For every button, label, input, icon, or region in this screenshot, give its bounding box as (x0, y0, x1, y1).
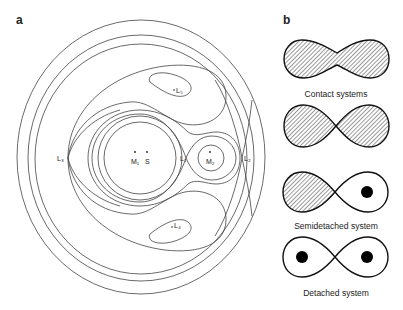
panel-a-roche-equipotentials: a M₁ S M₂ L₁ L₂ L₃ L₄ (16, 13, 265, 294)
m1-point (134, 151, 136, 153)
l4-point (171, 226, 173, 228)
m1-equipotential-inner (104, 122, 176, 194)
m2-point (209, 151, 211, 153)
outer-equipotential-1 (17, 20, 265, 294)
l2-label: L₂ (244, 155, 251, 162)
contact-systems-caption: Contact systems (305, 89, 368, 99)
detached-caption: Detached system (303, 288, 369, 298)
semidetached-star (361, 186, 373, 198)
l5-island (149, 73, 191, 97)
detached-star-right (361, 251, 373, 263)
detached-star-left (296, 251, 308, 263)
m2-label: M₂ (206, 158, 215, 165)
figure-canvas: a M₁ S M₂ L₁ L₂ L₃ L₄ (0, 0, 403, 310)
l1-label: L₁ (180, 155, 187, 162)
panel-a-label: a (16, 13, 23, 27)
l4-island (149, 220, 191, 244)
l5-label: L₅ (176, 87, 183, 94)
contact-system-figure-eight-shape (284, 105, 389, 147)
outer-equipotential-3 (35, 44, 247, 274)
contact-system-overcontact-shape (284, 40, 389, 78)
barycenter-label: S (145, 158, 150, 165)
l5-point (173, 89, 175, 91)
l4-label: L₄ (174, 222, 181, 229)
semidetached-caption: Semidetached system (294, 221, 378, 231)
common-envelope-contour (88, 110, 240, 206)
panel-b-label: b (283, 13, 290, 27)
m1-label: M₁ (131, 158, 140, 165)
barycenter-point (146, 151, 148, 153)
l3-label: L₃ (57, 155, 64, 162)
semidetached-filled-lobe (283, 172, 335, 212)
panel-b-binary-classes: b Contact systems Semidetached system De… (283, 13, 389, 298)
